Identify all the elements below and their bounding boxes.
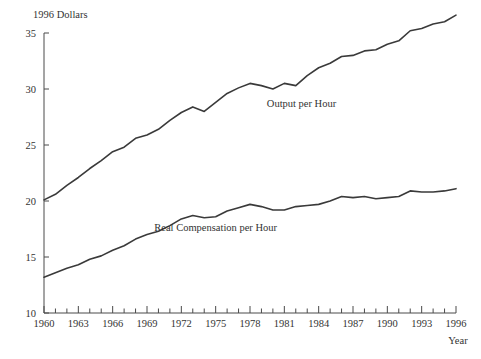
- series-line-1: [44, 15, 456, 200]
- series-annotation-1: Output per Hour: [267, 98, 337, 109]
- x-axis-tick-label: 1987: [343, 318, 364, 329]
- y-axis-title: 1996 Dollars: [33, 9, 88, 20]
- x-axis-tick-label: 1993: [411, 318, 432, 329]
- y-axis-tick-label: 20: [26, 196, 37, 207]
- x-axis-tick-label: 1963: [68, 318, 89, 329]
- x-axis-tick-label: 1981: [274, 318, 295, 329]
- y-axis-tick-label: 35: [26, 28, 37, 39]
- x-axis-tick-label: 1966: [102, 318, 123, 329]
- y-axis-tick-label: 15: [26, 252, 37, 263]
- x-axis-tick-label: 1984: [308, 318, 330, 329]
- x-axis-tick-label: 1960: [34, 318, 55, 329]
- line-chart: 1015202530351960196319661969197219751978…: [0, 0, 481, 359]
- x-axis-tick-label: 1969: [137, 318, 158, 329]
- series-annotation-2: Real Compensation per Hour: [154, 222, 277, 233]
- chart-container: 1015202530351960196319661969197219751978…: [0, 0, 481, 359]
- x-axis-tick-label: 1972: [171, 318, 192, 329]
- y-axis-tick-label: 30: [26, 84, 37, 95]
- series-group: [44, 15, 456, 277]
- x-axis-title: Year: [448, 335, 468, 346]
- y-axis-tick-label: 25: [26, 140, 37, 151]
- x-axis-tick-label: 1990: [377, 318, 398, 329]
- x-axis-tick-label: 1996: [446, 318, 467, 329]
- x-axis-tick-label: 1978: [240, 318, 261, 329]
- x-axis-tick-label: 1975: [205, 318, 226, 329]
- axes-group: 1015202530351960196319661969197219751978…: [26, 28, 467, 329]
- y-axis-tick-label: 10: [26, 308, 37, 319]
- labels-group: Output per HourReal Compensation per Hou…: [33, 9, 468, 346]
